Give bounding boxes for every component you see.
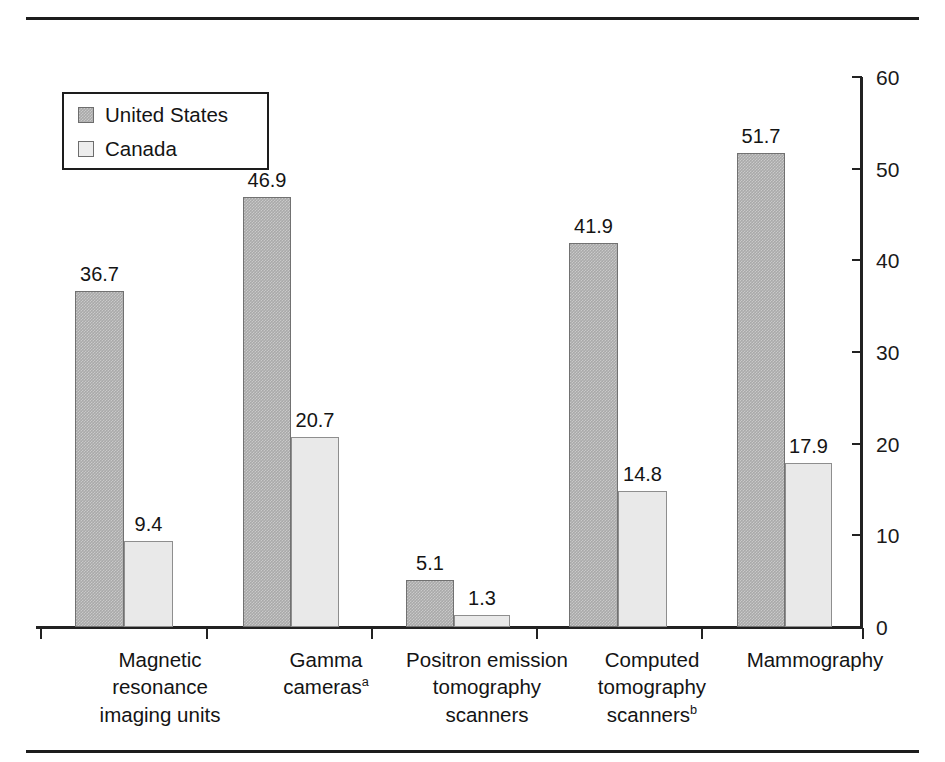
legend-label-united-states: United States <box>105 103 228 127</box>
legend-label-canada: Canada <box>105 137 177 161</box>
x-axis-tick <box>701 628 703 639</box>
bar-value-label-us-3: 41.9 <box>574 215 613 238</box>
category-label-3: Computedtomographyscannersb <box>598 646 706 728</box>
bar-us-2[interactable] <box>406 580 454 627</box>
legend-item-canada[interactable]: Canada <box>78 137 177 161</box>
y-axis-line <box>860 77 863 629</box>
category-label-4: Mammography <box>747 646 884 673</box>
category-footnote-marker: b <box>690 702 697 717</box>
bar-value-label-ca-4: 17.9 <box>789 435 828 458</box>
y-axis-tick-label: 40 <box>876 250 899 271</box>
category-label-2: Positron emissiontomographyscanners <box>406 646 568 728</box>
y-axis-tick <box>852 351 862 353</box>
category-label-0: Magneticresonanceimaging units <box>100 646 221 728</box>
y-axis-tick <box>852 168 862 170</box>
legend-swatch-united-states <box>78 107 94 123</box>
bar-value-label-us-4: 51.7 <box>742 125 781 148</box>
bar-value-label-ca-2: 1.3 <box>468 587 496 610</box>
bar-us-3[interactable] <box>569 243 618 627</box>
y-axis-tick <box>852 259 862 261</box>
y-axis-tick-label: 30 <box>876 342 899 363</box>
bar-value-label-ca-1: 20.7 <box>296 409 335 432</box>
bar-value-label-ca-3: 14.8 <box>623 463 662 486</box>
bar-chart-plot-area: 0102030405060 36.79.446.920.75.11.341.91… <box>0 0 945 762</box>
category-footnote-marker: a <box>362 674 369 689</box>
bar-us-4[interactable] <box>737 153 785 627</box>
y-axis-tick-label: 60 <box>876 67 899 88</box>
y-axis-tick <box>852 534 862 536</box>
x-axis-tick <box>206 628 208 639</box>
bar-ca-1[interactable] <box>291 437 339 627</box>
category-label-1: Gammacamerasa <box>283 646 369 701</box>
legend-item-united-states[interactable]: United States <box>78 103 228 127</box>
bar-value-label-us-2: 5.1 <box>416 552 444 575</box>
y-axis-tick <box>852 626 862 628</box>
x-axis-tick <box>862 628 864 639</box>
bar-ca-4[interactable] <box>785 463 832 627</box>
bar-us-0[interactable] <box>75 291 124 627</box>
y-axis-tick-label: 50 <box>876 158 899 179</box>
y-axis-tick <box>852 76 862 78</box>
chart-legend[interactable]: United States Canada <box>62 92 269 170</box>
bar-us-1[interactable] <box>243 197 291 627</box>
y-axis-tick <box>852 443 862 445</box>
x-axis-tick <box>536 628 538 639</box>
bar-ca-0[interactable] <box>124 541 173 627</box>
bar-ca-2[interactable] <box>454 615 510 627</box>
y-axis-tick-label: 0 <box>876 617 888 638</box>
x-axis-tick <box>371 628 373 639</box>
bar-value-label-us-0: 36.7 <box>80 263 119 286</box>
legend-swatch-canada <box>78 141 94 157</box>
x-axis-tick <box>40 628 42 639</box>
bar-value-label-us-1: 46.9 <box>248 169 287 192</box>
bar-value-label-ca-0: 9.4 <box>135 513 163 536</box>
y-axis-tick-label: 20 <box>876 433 899 454</box>
bar-ca-3[interactable] <box>618 491 667 627</box>
y-axis-tick-label: 10 <box>876 525 899 546</box>
